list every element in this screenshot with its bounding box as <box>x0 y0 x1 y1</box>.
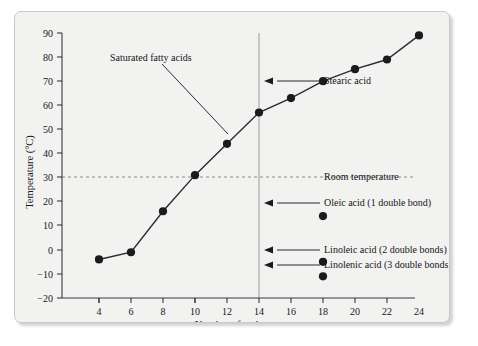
data-point <box>319 272 327 280</box>
data-point <box>383 55 391 63</box>
data-point <box>127 248 135 256</box>
annotation-saturated-fatty-acids: Saturated fatty acids <box>110 52 192 63</box>
annotation-linolenic-acid: Linolenic acid (3 double bonds) <box>324 259 449 271</box>
x-tick-label-24: 24 <box>414 306 424 317</box>
fatty-acid-melting-point-chart: 90 80 70 60 50 40 30 20 10 0 −10 −20 <box>15 12 449 322</box>
x-tick-label-20: 20 <box>350 306 360 317</box>
x-tick-label-8: 8 <box>161 306 166 317</box>
annotation-leaders <box>162 64 320 265</box>
data-point <box>223 140 231 148</box>
annotation-room-temperature: Room temperature <box>324 171 399 182</box>
y-tick-label-0: 0 <box>48 245 53 256</box>
data-point <box>415 31 423 39</box>
y-tick-label-30: 30 <box>43 172 53 183</box>
data-point <box>191 171 199 179</box>
data-point <box>319 212 327 220</box>
data-point <box>159 207 167 215</box>
figure-frame: 90 80 70 60 50 40 30 20 10 0 −10 −20 <box>14 11 450 323</box>
x-axis-ticks <box>99 298 387 303</box>
x-tick-label-16: 16 <box>286 306 296 317</box>
x-tick-label-10: 10 <box>190 306 200 317</box>
linoleic-arrowhead <box>264 247 273 254</box>
y-axis-ticks <box>57 33 62 298</box>
y-tick-label-10: 10 <box>43 220 53 231</box>
y-tick-label-40: 40 <box>43 148 53 159</box>
x-tick-label-12: 12 <box>222 306 232 317</box>
saturated-leader-line <box>162 64 228 134</box>
x-tick-label-4: 4 <box>97 306 102 317</box>
y-tick-label-80: 80 <box>43 52 53 63</box>
x-tick-label-14: 14 <box>254 306 264 317</box>
annotation-stearic-acid: Stearic acid <box>324 75 371 86</box>
data-point <box>287 94 295 102</box>
x-tick-label-6: 6 <box>129 306 134 317</box>
x-axis-title: Number of carbon atoms <box>195 319 300 322</box>
stearic-arrowhead <box>264 78 273 85</box>
linolenic-arrowhead <box>264 262 273 269</box>
x-tick-label-22: 22 <box>382 306 392 317</box>
y-tick-label-90: 90 <box>43 28 53 39</box>
y-tick-label-20: 20 <box>43 196 53 207</box>
oleic-arrowhead <box>264 200 273 207</box>
data-point <box>351 65 359 73</box>
y-tick-label-70: 70 <box>43 76 53 87</box>
y-axis-title: Temperature (°C) <box>24 135 36 209</box>
x-tick-label-18: 18 <box>318 306 328 317</box>
data-point <box>255 108 263 116</box>
annotation-linoleic-acid: Linoleic acid (2 double bonds) <box>324 244 447 256</box>
y-tick-label-neg20: −20 <box>37 293 53 304</box>
data-point <box>95 255 103 263</box>
annotation-oleic-acid: Oleic acid (1 double bond) <box>324 197 431 209</box>
y-tick-label-neg10: −10 <box>37 269 53 280</box>
y-tick-label-50: 50 <box>43 124 53 135</box>
y-tick-label-60: 60 <box>43 100 53 111</box>
